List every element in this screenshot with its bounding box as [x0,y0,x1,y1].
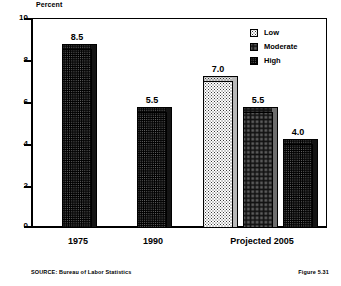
legend-swatch-high-icon [250,57,258,65]
legend-item-low: Low [250,27,297,38]
y-axis-label-0: 0 [24,222,28,230]
source-note: SOURCE: Bureau of Labor Statistics [31,269,131,275]
bar-value-2005-moderate: 5.5 [235,96,281,105]
bar-value-2005-high: 4.0 [275,128,321,137]
figure-number: Figure 5.31 [298,269,329,275]
bar-value-1990-high: 5.5 [129,96,175,105]
x-axis-label-1975: 1975 [55,236,101,246]
legend-label-moderate: Moderate [264,43,297,51]
legend-swatch-low-icon [250,29,258,37]
x-axis-label-1990: 1990 [130,236,176,246]
bar-1975-high [62,49,92,228]
y-axis-label-4: 4 [24,140,28,148]
legend-swatch-moderate-icon [250,43,258,51]
figure-container: Percent 10 8 6 4 2 0 8.5 5.5 7.0 5.5 4.0… [0,0,341,286]
bar-2005-low [203,81,233,228]
bar-value-1975-high: 8.5 [54,33,100,42]
x-axis-label-projected-2005: Projected 2005 [207,236,317,246]
y-axis-label-10: 10 [19,14,28,22]
legend: Low Moderate High [250,27,297,69]
y-axis-label-8: 8 [24,56,28,64]
y-axis-label-2: 2 [24,182,28,190]
legend-label-low: Low [264,29,279,37]
bar-2005-high [283,144,313,228]
legend-item-high: High [250,55,297,66]
legend-label-high: High [264,57,281,65]
y-axis-label-6: 6 [24,98,28,106]
bar-value-2005-low: 7.0 [195,65,241,74]
bar-2005-moderate [243,112,273,228]
y-axis-title: Percent [36,1,62,8]
bar-1990-high [137,112,167,228]
legend-item-moderate: Moderate [250,41,297,52]
